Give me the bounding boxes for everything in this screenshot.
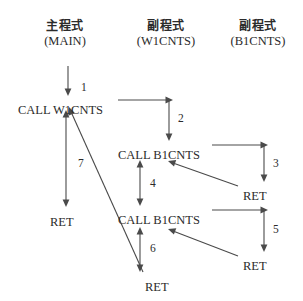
column-header-b1cnts-romanized: (B1CNTS): [216, 35, 300, 48]
column-header-b1cnts-cjk: 副程式: [216, 20, 300, 32]
call-return-diagram: 主程式 (MAIN) 副程式 (W1CNTS) 副程式 (B1CNTS) CAL…: [0, 0, 303, 301]
connector-return-to-ret-bottom: [168, 228, 238, 256]
step-number-6: 6: [150, 243, 156, 255]
node-ret-left: RET: [50, 216, 74, 229]
step-number-3: 3: [273, 158, 279, 170]
connector-step-7-vertical: [63, 110, 70, 207]
connector-step-7-diagonal: [68, 107, 143, 272]
node-call-b1cnts-2: CALL B1CNTS: [118, 214, 200, 227]
node-ret-bottom: RET: [145, 281, 169, 294]
connector-step-5: [212, 207, 268, 252]
node-call-w1cnts: CALL W1CNTS: [18, 104, 103, 117]
column-header-b1cnts: 副程式 (B1CNTS): [216, 20, 300, 48]
step-number-7: 7: [78, 158, 84, 170]
connector-step-3: [212, 142, 268, 182]
step-number-5: 5: [273, 224, 279, 236]
connector-return-to-call-b1cnts-2: [168, 160, 238, 186]
column-header-w1cnts-cjk: 副程式: [123, 20, 209, 32]
column-header-main-cjk: 主程式: [25, 20, 105, 32]
connector-step-4: [137, 160, 144, 206]
node-call-b1cnts-1: CALL B1CNTS: [118, 149, 200, 162]
column-header-w1cnts-romanized: (W1CNTS): [123, 35, 209, 48]
step-number-4: 4: [150, 178, 156, 190]
connector-step-2: [118, 97, 173, 141]
column-header-main-romanized: (MAIN): [25, 35, 105, 48]
column-header-main: 主程式 (MAIN): [25, 20, 105, 48]
connector-step-1: [65, 66, 72, 96]
node-ret-right-2: RET: [243, 260, 267, 273]
node-ret-right-1: RET: [243, 190, 267, 203]
step-number-1: 1: [81, 82, 87, 94]
step-number-2: 2: [178, 113, 184, 125]
column-header-w1cnts: 副程式 (W1CNTS): [123, 20, 209, 48]
